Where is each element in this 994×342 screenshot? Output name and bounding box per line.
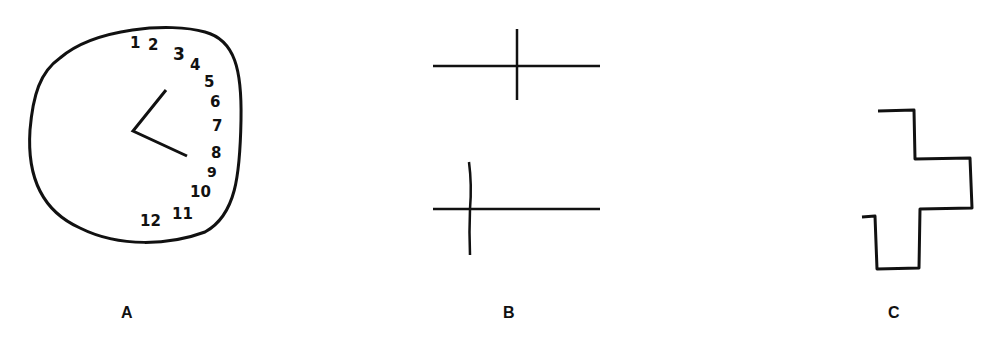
panel-label-c: C: [888, 304, 900, 322]
clock-drawing: 1 2 3 4 5 6 7 8 9 10 11 12: [30, 28, 242, 243]
clock-number-12: 12: [140, 212, 161, 230]
panel-label-b: B: [503, 304, 515, 322]
clock-face-outline: [30, 28, 242, 243]
clock-number-11: 11: [172, 205, 193, 223]
figure-canvas: 1 2 3 4 5 6 7 8 9 10 11 12: [0, 0, 994, 342]
clock-number-10: 10: [190, 183, 211, 201]
clock-numbers: 1 2 3 4 5 6 7 8 9 10 11 12: [130, 34, 222, 230]
clock-number-2: 2: [148, 36, 158, 54]
clock-number-5: 5: [204, 73, 214, 91]
clock-hands: [133, 90, 187, 156]
clock-number-9: 9: [207, 164, 217, 180]
cross-copy-drawing: [862, 110, 972, 269]
clock-number-3: 3: [173, 44, 185, 64]
clock-number-6: 6: [210, 93, 220, 111]
clock-number-1: 1: [130, 34, 140, 52]
half-cross-outline: [862, 110, 972, 269]
bottom-bisection-mark: [469, 162, 471, 255]
clock-number-8: 8: [211, 144, 221, 162]
panel-label-a: A: [121, 304, 133, 322]
line-bisection-drawing: [433, 29, 600, 255]
clock-number-7: 7: [212, 117, 222, 135]
clock-number-4: 4: [190, 56, 200, 74]
